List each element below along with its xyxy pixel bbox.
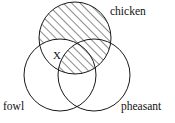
label-pheasant: pheasant [121, 100, 162, 113]
x-marker-label: X [53, 49, 61, 61]
label-chicken: chicken [110, 5, 146, 17]
venn-diagram: chicken fowl pheasant X [0, 0, 175, 123]
venn-diagram-canvas: chicken fowl pheasant X [0, 0, 175, 123]
label-fowl: fowl [3, 100, 24, 112]
